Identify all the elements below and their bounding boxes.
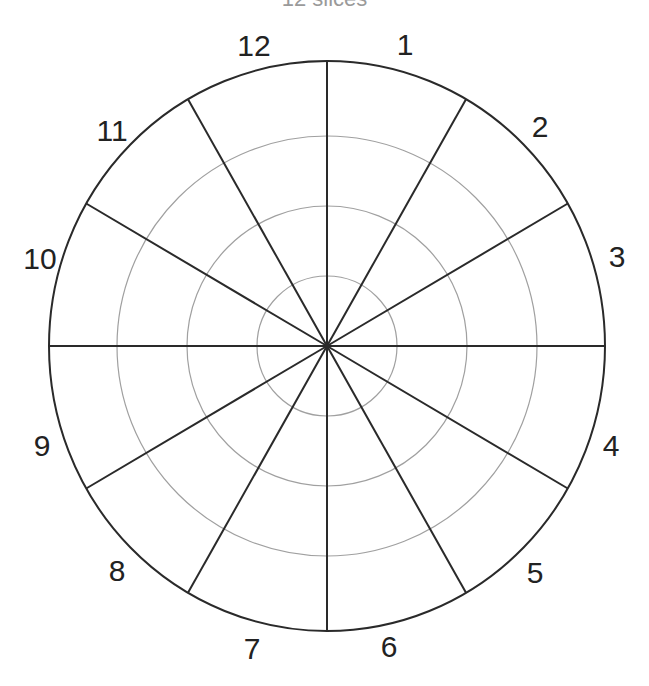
- slice-dividers: [49, 61, 605, 631]
- center-point: [324, 343, 330, 349]
- spoke-line: [327, 99, 466, 346]
- spoke-line: [188, 346, 327, 593]
- slice-label-1: 1: [397, 28, 414, 61]
- slice-label-3: 3: [609, 240, 626, 273]
- slice-label-4: 4: [603, 429, 620, 462]
- slice-wheel: 123456789101112: [0, 0, 649, 686]
- slice-label-9: 9: [34, 429, 51, 462]
- spoke-line: [86, 346, 327, 489]
- spoke-line: [188, 99, 327, 346]
- spoke-line: [86, 204, 327, 347]
- slice-label-12: 12: [237, 29, 270, 62]
- slice-label-11: 11: [96, 114, 127, 147]
- spoke-line: [327, 204, 568, 347]
- slice-label-2: 2: [532, 110, 549, 143]
- slice-label-8: 8: [109, 554, 126, 587]
- slice-label-6: 6: [381, 630, 398, 663]
- slice-label-10: 10: [23, 242, 56, 275]
- spoke-line: [327, 346, 568, 489]
- spoke-line: [327, 346, 466, 593]
- slice-label-5: 5: [527, 556, 544, 589]
- slice-label-7: 7: [244, 632, 261, 665]
